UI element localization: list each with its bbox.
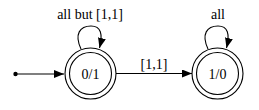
automaton-diagram: 0/1 all but [1,1] [1,1] 1/0 all <box>0 0 259 110</box>
transition-label: all but [1,1] <box>57 7 123 22</box>
state-label: 0/1 <box>82 67 100 82</box>
transition-0-1-to-1-0: [1,1] <box>116 57 192 74</box>
state-0-1[interactable]: 0/1 <box>65 48 116 99</box>
state-1-0[interactable]: 1/0 <box>192 48 243 99</box>
initial-arrow <box>13 72 64 76</box>
state-label: 1/0 <box>209 67 227 82</box>
self-loop-0-1: all but [1,1] <box>57 7 123 49</box>
transition-label: [1,1] <box>141 57 168 72</box>
transition-label: all <box>211 7 225 22</box>
self-loop-1-0: all <box>205 7 228 49</box>
